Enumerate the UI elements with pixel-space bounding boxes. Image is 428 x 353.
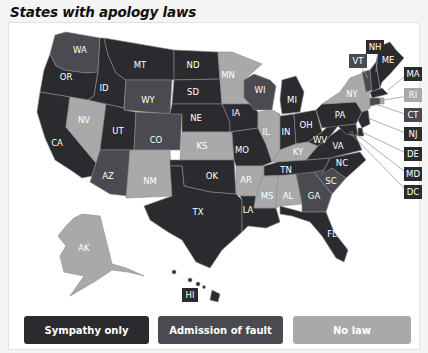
label-ky: KY	[293, 147, 304, 157]
label-ut: UT	[112, 126, 124, 136]
svg-text:DC: DC	[407, 187, 420, 197]
label-al: AL	[283, 191, 294, 201]
svg-text:RI: RI	[409, 90, 417, 100]
label-nc: NC	[336, 158, 348, 168]
label-az: AZ	[102, 171, 114, 181]
label-ga: GA	[308, 191, 321, 201]
svg-text:NH: NH	[369, 42, 382, 52]
legend-no-law: No law	[293, 316, 411, 344]
label-id: ID	[99, 83, 109, 93]
svg-text:HI: HI	[186, 290, 195, 300]
label-or: OR	[60, 72, 73, 82]
legend-sympathy-only-label: Sympathy only	[45, 325, 129, 336]
svg-text:DE: DE	[407, 149, 419, 159]
us-map: WA OR CA NV ID MT WY UT AZ CO NM ND SD N…	[0, 0, 428, 353]
label-mt: MT	[134, 60, 147, 70]
label-wa: WA	[73, 45, 87, 55]
state-ak[interactable]	[58, 214, 144, 296]
legend-admission-of-fault-label: Admission of fault	[169, 325, 272, 336]
label-tx: TX	[191, 207, 203, 217]
label-pa: PA	[335, 110, 346, 120]
label-mo: MO	[235, 145, 249, 155]
state-fl[interactable]	[280, 206, 348, 262]
svg-text:CT: CT	[407, 110, 419, 120]
label-in: IN	[282, 127, 291, 137]
label-mn: MN	[221, 70, 235, 80]
label-fl: FL	[327, 229, 337, 239]
label-co: CO	[150, 135, 163, 145]
label-tn: TN	[279, 165, 292, 175]
svg-text:ME: ME	[382, 55, 395, 65]
label-oh: OH	[299, 120, 312, 130]
state-de[interactable]	[358, 128, 364, 136]
svg-text:NJ: NJ	[409, 129, 418, 139]
label-ia: IA	[232, 108, 241, 118]
label-nm: NM	[143, 176, 157, 186]
label-ne: NE	[190, 113, 202, 123]
label-ny: NY	[346, 89, 358, 99]
label-ok: OK	[206, 171, 219, 181]
label-mi: MI	[287, 95, 297, 105]
label-ks: KS	[197, 141, 208, 151]
label-wi: WI	[255, 85, 266, 95]
svg-text:VT: VT	[352, 56, 364, 66]
state-ri[interactable]	[380, 98, 384, 104]
label-wv: WV	[313, 135, 327, 145]
label-il: IL	[262, 127, 270, 137]
label-ms: MS	[261, 191, 274, 201]
legend-admission-of-fault: Admission of fault	[158, 316, 283, 344]
label-la: LA	[243, 205, 254, 215]
label-sc: SC	[325, 176, 336, 186]
legend-no-law-label: No law	[333, 325, 371, 336]
label-ca: CA	[51, 138, 63, 148]
label-ar: AR	[240, 175, 252, 185]
label-sd: SD	[187, 87, 199, 97]
state-nm[interactable]	[126, 150, 172, 198]
label-va: VA	[332, 141, 343, 151]
label-nd: ND	[187, 60, 200, 70]
label-nv: NV	[78, 115, 90, 125]
svg-text:MA: MA	[406, 69, 419, 79]
label-ak: AK	[78, 243, 90, 253]
legend-sympathy-only: Sympathy only	[24, 316, 149, 344]
label-wy: WY	[141, 95, 155, 105]
svg-text:MD: MD	[406, 169, 420, 179]
